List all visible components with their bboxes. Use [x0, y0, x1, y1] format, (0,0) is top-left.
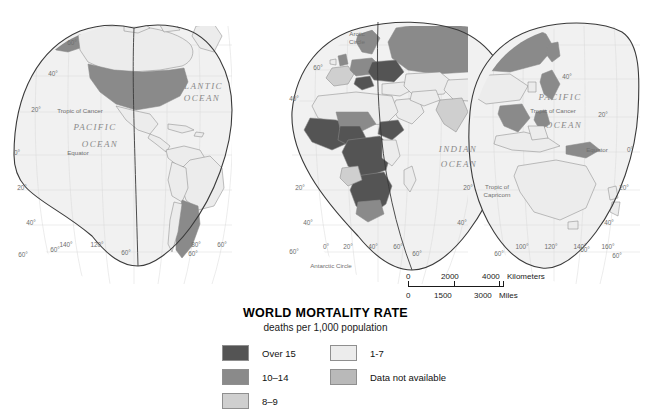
longitude-label-7: 60°	[289, 248, 299, 255]
title-block: WORLD MORTALITY RATE deaths per 1,000 po…	[0, 306, 651, 334]
reference-label-1: Equator	[67, 149, 89, 156]
longitude-label-11: 60°	[393, 243, 403, 250]
scale-bar: 0 2000 4000 Kilometers 0 1500 3000 Miles	[406, 272, 556, 306]
reference-label-5: Capricorn	[484, 191, 511, 198]
latitude-label-12: 40°	[457, 219, 467, 226]
longitude-label-15: 140°	[573, 243, 587, 250]
latitude-label-9: 20°	[295, 184, 305, 191]
reference-label-7: Circle	[349, 38, 365, 45]
longitude-label-9: 20°	[343, 243, 353, 250]
reference-label-8: Antarctic Circle	[310, 262, 352, 269]
longitude-label-0: 140°	[59, 241, 73, 248]
latitude-label-16: 20°	[619, 184, 629, 191]
latitude-label-13: 40°	[562, 73, 572, 80]
ocean-label-3: OCEAN	[82, 139, 119, 149]
legend-label-left-2: 8–9	[262, 396, 278, 407]
longitude-label-2: 60°	[18, 251, 28, 258]
reference-label-3: Equator	[586, 146, 608, 153]
latitude-label-7: 60°	[313, 64, 323, 71]
latitude-label-0: 60°	[67, 39, 77, 46]
legend-item-right-0[interactable]: 1-7	[330, 341, 446, 365]
scale-mi-unit: Miles	[499, 291, 518, 300]
longitude-label-12: 60°	[412, 250, 422, 257]
legend-swatch-left-0	[222, 345, 249, 361]
latitude-label-15: 0°	[627, 146, 634, 153]
longitude-label-3: 60°	[121, 249, 131, 256]
latitude-label-1: 40°	[48, 70, 58, 77]
legend-label-right-0: 1-7	[370, 348, 384, 359]
longitude-label-8: 0°	[323, 243, 330, 250]
reference-label-2: Tropic of Cancer	[530, 107, 576, 114]
longitude-label-10: 40°	[368, 243, 378, 250]
latitude-label-4: 20°	[17, 184, 27, 191]
scale-mi-tick-0: 0	[406, 291, 410, 300]
scale-mi-tick-2: 3000	[474, 291, 492, 300]
scale-km-ruler	[408, 281, 504, 287]
scale-km-tick-2: 4000	[482, 272, 500, 281]
scale-km-tick-0: 0	[406, 272, 410, 281]
scale-row-miles: 0 1500 3000 Miles	[406, 291, 556, 306]
legend-label-left-1: 10–14	[262, 372, 288, 383]
map-subtitle: deaths per 1,000 population	[0, 321, 651, 334]
longitude-label-16: 160°	[601, 243, 615, 250]
reference-label-4: Tropic of	[485, 183, 509, 190]
legend-swatch-left-2	[222, 393, 249, 409]
legend-item-left-0[interactable]: Over 15	[222, 341, 296, 365]
scale-km-tick-1: 2000	[441, 272, 459, 281]
latitude-label-17: 40°	[604, 219, 614, 226]
world-mortality-map-page: ATLANTICOCEANPACIFICOCEANINDIANOCEANPACI…	[0, 0, 651, 417]
ocean-label-0: ATLANTIC	[170, 81, 223, 91]
legend-swatch-right-0	[330, 345, 357, 361]
longitude-label-1: 120°	[90, 241, 104, 248]
legend-label-left-0: Over 15	[262, 348, 296, 359]
map-title: WORLD MORTALITY RATE	[0, 306, 651, 321]
ocean-label-4: INDIAN	[438, 144, 477, 154]
latitude-label-8: 40°	[289, 95, 299, 102]
longitude-label-5: 60°	[217, 241, 227, 248]
legend-swatch-right-1	[330, 369, 357, 385]
legend-column-left: Over 1510–148–9	[222, 341, 296, 413]
scale-row-kilometers: 0 2000 4000 Kilometers	[406, 272, 556, 287]
world-map-graphic[interactable]: ATLANTICOCEANPACIFICOCEANINDIANOCEANPACI…	[0, 0, 651, 300]
scale-km-unit: Kilometers	[507, 272, 545, 281]
legend-item-left-1[interactable]: 10–14	[222, 365, 296, 389]
ocean-label-6: PACIFIC	[537, 92, 581, 102]
longitude-label-6: 60°	[188, 250, 198, 257]
ocean-label-1: OCEAN	[184, 93, 221, 103]
latitude-label-10: 40°	[303, 219, 313, 226]
legend-item-left-2[interactable]: 8–9	[222, 389, 296, 413]
latitude-label-5: 40°	[26, 219, 36, 226]
longitude-label-14: 120°	[544, 243, 558, 250]
legend-column-right: 1-7Data not available	[330, 341, 446, 389]
ocean-label-2: PACIFIC	[72, 122, 116, 132]
latitude-label-3: 0°	[14, 149, 21, 156]
longitude-label-13: 100°	[515, 243, 529, 250]
latitude-label-14: 20°	[598, 111, 608, 118]
latitude-label-2: 20°	[31, 106, 41, 113]
longitude-label-4: 80°	[191, 241, 201, 248]
reference-label-0: Tropic of Cancer	[57, 107, 103, 114]
longitude-label-18: 60°	[612, 252, 622, 259]
latitude-label-11: 20°	[463, 184, 473, 191]
reference-label-6: Arctic	[349, 30, 364, 37]
scale-mi-tick-1: 1500	[434, 291, 452, 300]
legend-item-right-1[interactable]: Data not available	[330, 365, 446, 389]
longitude-label-17: 60°	[494, 250, 504, 257]
legend-label-right-1: Data not available	[370, 372, 446, 383]
legend-swatch-left-1	[222, 369, 249, 385]
ocean-label-7: OCEAN	[546, 120, 583, 130]
ocean-label-5: OCEAN	[441, 159, 478, 169]
